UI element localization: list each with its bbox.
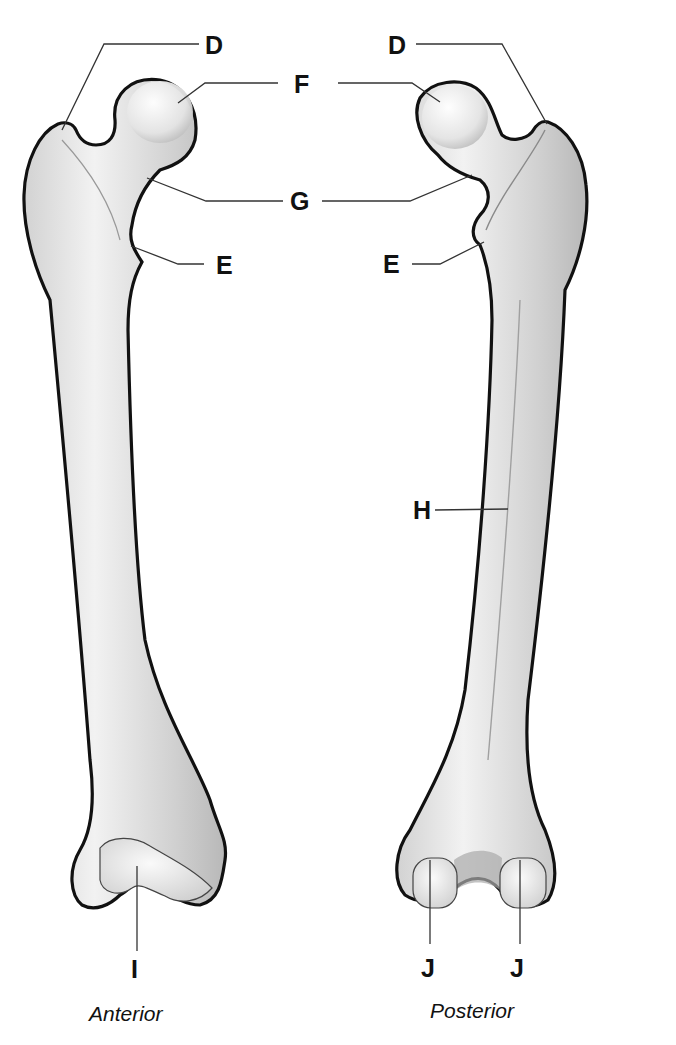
label-j-medial: J <box>421 956 435 981</box>
label-e-anterior: E <box>216 253 233 278</box>
posterior-femoral-head <box>422 85 488 149</box>
lateral-condyle <box>500 858 546 908</box>
label-d-posterior: D <box>388 33 406 58</box>
caption-posterior: Posterior <box>430 1000 514 1021</box>
label-h: H <box>413 498 431 523</box>
label-g: G <box>290 189 309 214</box>
label-f: F <box>294 72 309 97</box>
caption-anterior: Anterior <box>89 1003 163 1024</box>
posterior-femur-body <box>397 82 587 906</box>
anterior-femur-body <box>24 79 226 907</box>
femur-diagram <box>0 0 676 1045</box>
label-i: I <box>131 957 138 982</box>
anterior-femur <box>24 79 226 907</box>
posterior-femur <box>397 82 587 908</box>
label-d-anterior: D <box>205 33 223 58</box>
medial-condyle <box>413 858 457 908</box>
label-j-lateral: J <box>510 956 524 981</box>
label-e-posterior: E <box>383 252 400 277</box>
anterior-femoral-head <box>127 81 193 143</box>
